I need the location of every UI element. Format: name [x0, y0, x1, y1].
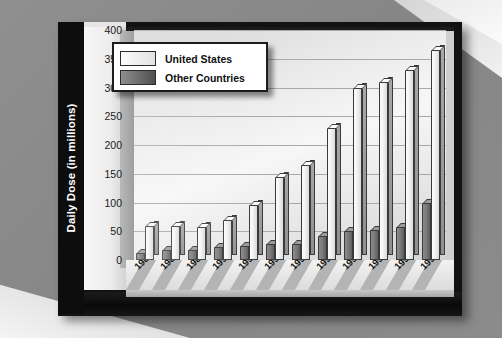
legend-item-united-states: United States: [120, 49, 260, 68]
bar-face: [145, 226, 154, 261]
bar-side: [440, 45, 445, 255]
bar-face: [344, 231, 353, 260]
gridline: [134, 30, 446, 31]
gridline: [134, 116, 446, 117]
legend-swatch-united-states: [120, 51, 156, 66]
bar-face: [136, 253, 145, 260]
bar-united-states-1997: [405, 70, 414, 260]
y-axis-tick-label: 400: [86, 24, 122, 36]
bar-side: [336, 123, 341, 255]
bar-other-countries-1987: [136, 253, 145, 260]
bar-united-states-1994: [327, 128, 336, 260]
bar-side: [232, 215, 237, 255]
chart-floor-front-edge: [126, 290, 454, 297]
bar-face: [197, 227, 206, 260]
legend-swatch-other-countries: [120, 70, 156, 85]
bar-united-states-1993: [301, 165, 310, 260]
bar-united-states-1998: [431, 50, 440, 260]
bar-face: [318, 236, 327, 260]
bar-other-countries-1994: [318, 236, 327, 260]
bar-other-countries-1996: [370, 230, 379, 260]
bar-face: [214, 247, 223, 260]
bar-face: [249, 205, 258, 260]
bar-united-states-1996: [379, 82, 388, 260]
y-axis-tick-label: 250: [86, 110, 122, 122]
bar-other-countries-1989: [188, 250, 197, 260]
bar-other-countries-1992: [266, 244, 275, 260]
bar-other-countries-1990: [214, 247, 223, 260]
bar-other-countries-1991: [240, 246, 249, 260]
bar-other-countries-1993: [292, 244, 301, 260]
bar-face: [240, 246, 249, 260]
bar-face: [188, 250, 197, 260]
bar-united-states-1989: [197, 227, 206, 260]
bar-face: [171, 226, 180, 261]
y-axis-tick-label: 200: [86, 139, 122, 151]
bar-united-states-1991: [249, 205, 258, 260]
bar-united-states-1992: [275, 177, 284, 260]
bar-united-states-1988: [171, 226, 180, 261]
y-axis-tick-label: 50: [86, 225, 122, 237]
legend-label-united-states: United States: [165, 53, 232, 65]
bar-united-states-1995: [353, 88, 362, 261]
bar-side: [284, 172, 289, 255]
bar-face: [405, 70, 414, 260]
bar-other-countries-1997: [396, 227, 405, 260]
bar-side: [362, 83, 367, 256]
chart-floor: 1987198819891990199119921993199419951996…: [126, 260, 454, 290]
bar-face: [370, 230, 379, 260]
bar-face: [266, 244, 275, 260]
bar-side: [258, 200, 263, 255]
bar-side: [388, 77, 393, 255]
gridline: [134, 203, 446, 204]
bar-united-states-1987: [145, 226, 154, 261]
legend-label-other-countries: Other Countries: [165, 72, 245, 84]
bar-face: [396, 227, 405, 260]
bar-side: [310, 160, 315, 255]
bar-face: [223, 220, 232, 260]
gridline: [134, 174, 446, 175]
bar-face: [301, 165, 310, 260]
bar-face: [353, 88, 362, 261]
y-axis-tick-label: 100: [86, 197, 122, 209]
bar-other-countries-1988: [162, 250, 171, 260]
bar-other-countries-1995: [344, 231, 353, 260]
y-axis-tick-label: 150: [86, 168, 122, 180]
gridline: [134, 145, 446, 146]
bar-face: [422, 203, 431, 261]
bar-face: [327, 128, 336, 260]
bar-side: [414, 65, 419, 255]
bar-face: [162, 250, 171, 260]
bar-face: [275, 177, 284, 260]
y-axis-tick-label: 0: [86, 254, 122, 266]
legend-item-other-countries: Other Countries: [120, 68, 260, 87]
chart-legend: United States Other Countries: [112, 42, 268, 92]
y-axis-title: Daily Dose (in millions): [58, 22, 84, 314]
bar-united-states-1990: [223, 220, 232, 260]
bar-face: [431, 50, 440, 260]
bar-face: [379, 82, 388, 260]
bar-other-countries-1998: [422, 203, 431, 261]
bar-face: [292, 244, 301, 260]
